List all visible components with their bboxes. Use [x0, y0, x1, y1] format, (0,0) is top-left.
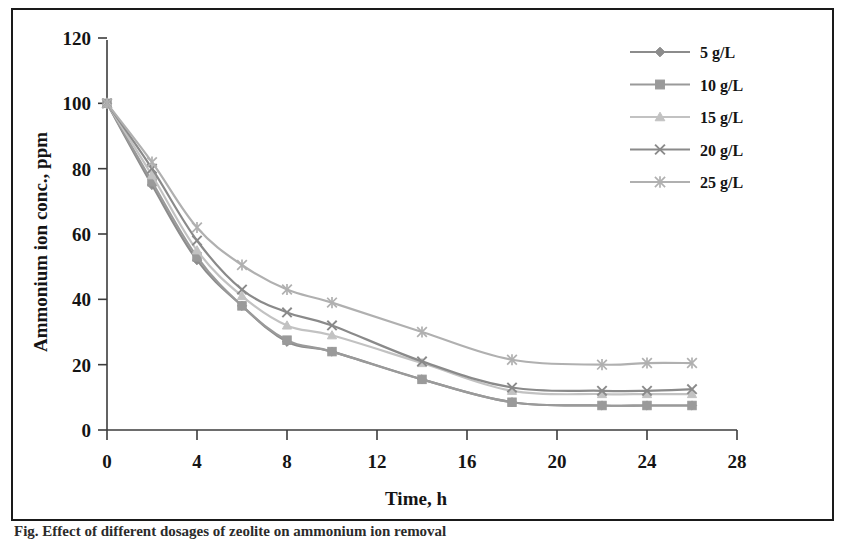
legend-label: 10 g/L [700, 77, 743, 95]
y-tick-label: 20 [72, 355, 91, 376]
x-tick-label: 0 [102, 451, 112, 472]
x-tick-label: 20 [548, 451, 567, 472]
data-point-square-marker [688, 401, 696, 409]
x-tick-label: 4 [192, 451, 202, 472]
data-point-square-marker [508, 398, 516, 406]
line-chart: 0204060801001200481216202428 5 g/L10 g/L… [13, 10, 836, 523]
legend-label: 15 g/L [700, 109, 743, 127]
chart-frame: 0204060801001200481216202428 5 g/L10 g/L… [11, 8, 834, 521]
y-tick-label: 80 [72, 159, 91, 180]
legend-layer: 5 g/L10 g/L15 g/L20 g/L25 g/L [630, 44, 743, 192]
data-point-square-marker [238, 302, 246, 310]
legend-entry-25-g-l[interactable]: 25 g/L [630, 174, 743, 192]
y-tick-label: 100 [63, 93, 92, 114]
y-tick-label: 40 [72, 289, 91, 310]
series-line [107, 103, 692, 364]
y-tick-label: 60 [72, 224, 91, 245]
legend-entry-10-g-l[interactable]: 10 g/L [630, 77, 743, 95]
data-point-asterisk-marker [237, 259, 247, 270]
x-tick-label: 16 [458, 451, 477, 472]
data-point-square-marker [656, 80, 665, 89]
data-point-square-marker [598, 401, 606, 409]
legend-entry-5-g-l[interactable]: 5 g/L [630, 44, 735, 62]
x-tick-label: 12 [368, 451, 387, 472]
figure-caption-fragment: Fig. Effect of different dosages of zeol… [14, 524, 834, 539]
data-point-x-marker [282, 308, 291, 317]
x-tick-label: 28 [728, 451, 747, 472]
y-tick-label: 120 [63, 28, 92, 49]
data-point-square-marker [643, 401, 651, 409]
data-point-square-marker [283, 336, 291, 344]
data-point-square-marker [418, 375, 426, 383]
data-point-diamond-marker [655, 47, 665, 57]
legend-label: 20 g/L [700, 142, 743, 160]
data-point-asterisk-marker [282, 284, 292, 295]
legend-label: 5 g/L [700, 44, 735, 62]
data-point-square-marker [328, 347, 336, 355]
data-point-x-marker [192, 236, 201, 245]
legend-label: 25 g/L [700, 174, 743, 192]
figure-container: 0204060801001200481216202428 5 g/L10 g/L… [0, 0, 851, 539]
x-tick-label: 8 [282, 451, 292, 472]
legend-entry-15-g-l[interactable]: 15 g/L [630, 109, 743, 127]
x-tick-label: 24 [638, 451, 658, 472]
series-5-g-l [102, 99, 696, 410]
y-tick-label: 0 [82, 420, 92, 441]
legend-entry-20-g-l[interactable]: 20 g/L [630, 142, 743, 160]
series-layer [102, 98, 697, 410]
y-axis-title: Ammonium ion conc., ppm [30, 132, 51, 352]
x-axis-title: Time, h [385, 488, 447, 509]
data-point-asterisk-marker [192, 222, 202, 233]
